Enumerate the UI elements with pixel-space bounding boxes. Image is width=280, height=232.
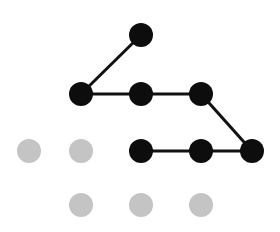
inactive-dot <box>69 193 93 217</box>
active-dot <box>69 82 93 106</box>
dot-path-diagram <box>0 0 280 232</box>
active-dot <box>189 82 213 106</box>
active-dot <box>240 139 264 163</box>
path-edge <box>81 35 141 94</box>
inactive-dot <box>69 139 93 163</box>
active-dot <box>129 139 153 163</box>
path-nodes <box>17 23 264 217</box>
active-dot <box>189 139 213 163</box>
diagram-svg <box>0 0 280 232</box>
active-dot <box>129 82 153 106</box>
path-edges <box>81 35 252 151</box>
inactive-dot <box>189 193 213 217</box>
active-dot <box>129 23 153 47</box>
inactive-dot <box>17 139 41 163</box>
inactive-dot <box>129 193 153 217</box>
